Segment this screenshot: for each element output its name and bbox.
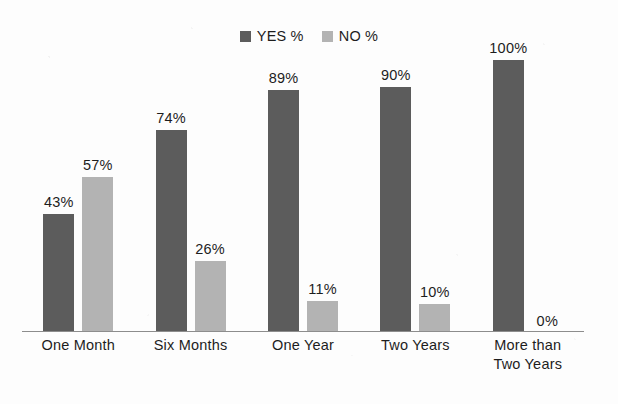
bar-group: 74%26% xyxy=(156,60,226,331)
bar-no[interactable]: 11% xyxy=(307,301,338,331)
bar-value-label: 26% xyxy=(195,241,225,257)
bar-yes[interactable]: 90% xyxy=(380,87,411,331)
plot-area: 43%57%74%26%89%11%90%10%100%0% xyxy=(22,60,584,331)
bar-group: 100%0% xyxy=(493,60,563,331)
category-label: One Year xyxy=(247,336,359,355)
category-label-line: Two Years xyxy=(472,355,584,374)
bar-yes[interactable]: 89% xyxy=(268,90,299,331)
bar-group: 43%57% xyxy=(43,60,113,331)
bar-value-label: 90% xyxy=(381,67,411,83)
bar-value-label: 57% xyxy=(83,157,113,173)
legend-item-no[interactable]: NO % xyxy=(322,28,378,44)
category-label-line: More than xyxy=(472,336,584,355)
bar-value-label: 0% xyxy=(537,313,558,329)
bar-value-label: 89% xyxy=(269,70,299,86)
x-axis-baseline xyxy=(22,331,584,332)
bar-value-label: 10% xyxy=(420,284,450,300)
bar-value-label: 74% xyxy=(156,110,186,126)
category-label-line: One Month xyxy=(22,336,134,355)
bar-group: 89%11% xyxy=(268,60,338,331)
bar-value-label: 100% xyxy=(489,40,527,56)
legend-label-no: NO % xyxy=(339,28,378,44)
category-label: Six Months xyxy=(134,336,246,355)
bar-yes[interactable]: 43% xyxy=(43,214,74,331)
bar-no[interactable]: 10% xyxy=(419,304,450,331)
legend-swatch-no-icon xyxy=(322,31,333,42)
bar-no[interactable]: 57% xyxy=(82,177,113,331)
category-label: One Month xyxy=(22,336,134,355)
bar-no[interactable]: 26% xyxy=(195,261,226,331)
bar-yes[interactable]: 74% xyxy=(156,130,187,331)
bar-yes[interactable]: 100% xyxy=(493,60,524,331)
category-label: More thanTwo Years xyxy=(472,336,584,374)
category-label-line: One Year xyxy=(247,336,359,355)
bar-chart: YES % NO % 43%57%74%26%89%11%90%10%100%0… xyxy=(0,0,618,404)
legend-item-yes[interactable]: YES % xyxy=(240,28,304,44)
bar-value-label: 43% xyxy=(44,194,74,210)
legend-label-yes: YES % xyxy=(257,28,304,44)
x-axis-category-labels: One MonthSix MonthsOne YearTwo YearsMore… xyxy=(22,336,584,396)
legend-swatch-yes-icon xyxy=(240,31,251,42)
category-label-line: Two Years xyxy=(359,336,471,355)
category-label: Two Years xyxy=(359,336,471,355)
category-label-line: Six Months xyxy=(134,336,246,355)
bar-value-label: 11% xyxy=(308,281,337,297)
bar-group: 90%10% xyxy=(380,60,450,331)
